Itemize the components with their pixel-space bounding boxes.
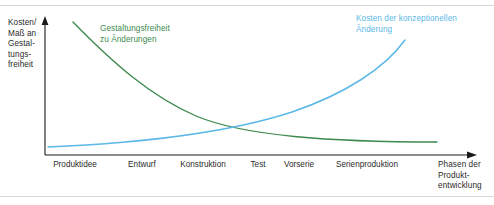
series-line-kosten: [48, 40, 405, 147]
x-tick-konstruktion: Konstruktion: [180, 160, 226, 171]
x-tick-produktidee: Produktidee: [53, 160, 97, 171]
x-tick-test: Test: [250, 160, 265, 171]
y-axis-title: Kosten/ Maß an Gestal- tungs- freiheit: [8, 18, 44, 71]
series-annotation-kosten: Kosten der konzeptionellen Änderung: [356, 14, 457, 35]
x-tick-vorserie: Vorserie: [284, 160, 314, 171]
series-annotation-gestaltungsfreiheit: Gestaltungsfreiheit zu Änderungen: [100, 24, 170, 45]
x-axis-arrowhead: [467, 151, 477, 158]
x-tick-serienproduktion: Serienproduktion: [336, 160, 398, 171]
x-tick-entwurf: Entwurf: [128, 160, 156, 171]
chart-figure: Kosten/ Maß an Gestal- tungs- freiheit P…: [0, 0, 494, 205]
x-axis-title: Phasen der Produkt- entwicklung: [438, 160, 494, 192]
